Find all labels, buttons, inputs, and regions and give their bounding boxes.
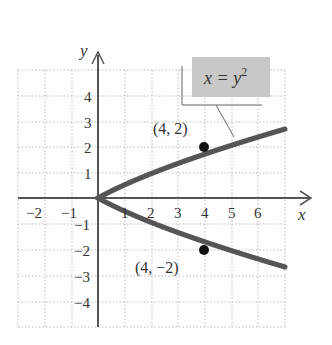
svg-text:3: 3 (84, 115, 92, 131)
svg-text:5: 5 (228, 205, 236, 221)
point-label-4-neg2: (4, −2) (135, 259, 179, 277)
svg-text:4: 4 (201, 205, 209, 221)
svg-text:4: 4 (84, 89, 92, 105)
y-tick-labels: 4 3 2 1 −1 −2 −3 −4 (74, 89, 92, 311)
svg-text:2: 2 (147, 205, 155, 221)
svg-text:−3: −3 (74, 269, 90, 285)
point-label-4-2: (4, 2) (153, 120, 188, 138)
point-4-2 (199, 142, 209, 152)
svg-text:6: 6 (254, 205, 262, 221)
y-axis-label: y (78, 41, 88, 60)
x-axis-label: x (297, 205, 306, 224)
svg-text:3: 3 (174, 205, 182, 221)
svg-text:−1: −1 (74, 217, 90, 233)
equation-callout: x = y2 (182, 57, 270, 137)
svg-text:1: 1 (121, 205, 129, 221)
equation-label: x = y2 (203, 65, 247, 88)
point-4-neg2 (199, 245, 209, 255)
svg-text:−2: −2 (26, 205, 42, 221)
svg-text:−4: −4 (74, 295, 90, 311)
svg-text:2: 2 (84, 140, 92, 156)
svg-text:−2: −2 (74, 243, 90, 259)
svg-text:1: 1 (84, 166, 92, 182)
parabola-chart: x = y2 (4, 2) (4, −2) −2 −1 1 2 3 4 5 6 … (0, 0, 332, 345)
